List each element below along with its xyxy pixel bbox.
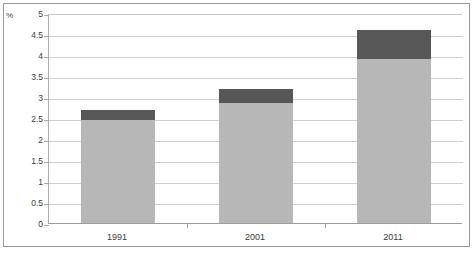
x-axis-category-separator bbox=[325, 223, 326, 228]
bar-segment-upper-segment[interactable] bbox=[219, 89, 293, 104]
x-axis-tick-labels: 199120012011 bbox=[48, 231, 462, 245]
y-axis-tick-label: 1.5 bbox=[3, 157, 43, 166]
y-axis-tick-label: 2 bbox=[3, 136, 43, 145]
bar-stack[interactable] bbox=[219, 89, 293, 223]
x-axis-tick-label: 1991 bbox=[48, 231, 186, 245]
y-axis-tick-mark bbox=[44, 225, 49, 226]
y-axis-tick-label: 4.5 bbox=[3, 31, 43, 40]
plot-area bbox=[48, 14, 462, 224]
y-axis-tick-label: 0.5 bbox=[3, 199, 43, 208]
bar-segment-lower-segment[interactable] bbox=[219, 103, 293, 223]
x-axis-category-separator bbox=[187, 223, 188, 228]
y-axis-tick-label: 2.5 bbox=[3, 115, 43, 124]
stacked-bar-chart: % 54.543.532.521.510.50 199120012011 bbox=[0, 0, 473, 259]
bar-group bbox=[325, 13, 463, 223]
y-axis-tick-label: 0 bbox=[3, 220, 43, 229]
y-axis-tick-label: 4 bbox=[3, 52, 43, 61]
y-axis-tick-label: 1 bbox=[3, 178, 43, 187]
y-axis-tick-label: 5 bbox=[3, 10, 43, 19]
y-axis-tick-label: 3.5 bbox=[3, 73, 43, 82]
bar-stack[interactable] bbox=[357, 30, 431, 223]
bar-group bbox=[187, 13, 325, 223]
x-axis-tick-label: 2011 bbox=[324, 231, 462, 245]
bar-group bbox=[49, 13, 187, 223]
bar-stack[interactable] bbox=[81, 110, 155, 223]
bar-segment-lower-segment[interactable] bbox=[81, 120, 155, 223]
y-axis-tick-labels: 54.543.532.521.510.50 bbox=[0, 14, 43, 224]
y-axis-tick-label: 3 bbox=[3, 94, 43, 103]
bar-segment-upper-segment[interactable] bbox=[81, 110, 155, 121]
bar-segment-upper-segment[interactable] bbox=[357, 30, 431, 59]
bar-segment-lower-segment[interactable] bbox=[357, 59, 431, 223]
x-axis-tick-label: 2001 bbox=[186, 231, 324, 245]
